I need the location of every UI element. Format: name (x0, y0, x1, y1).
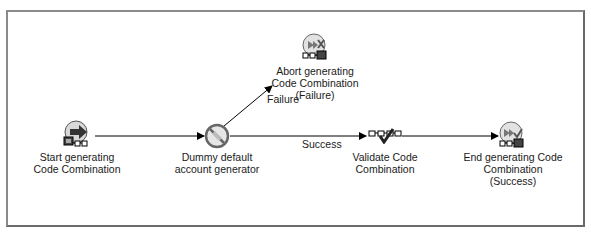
start-process-icon (62, 120, 92, 150)
validate-function-icon (368, 128, 402, 144)
node-label: Start generating Code Combination (34, 151, 121, 175)
edge-dummy-abort[interactable] (224, 86, 272, 126)
label-line: Abort generating (272, 65, 359, 77)
abort-process-icon (300, 33, 330, 63)
label-line: Validate Code (352, 151, 417, 163)
edges-layer (0, 0, 591, 235)
node-label: Validate Code Combination (352, 151, 417, 175)
label-line: Combination (463, 163, 562, 175)
end-process-icon (497, 121, 527, 151)
label-line: account generator (175, 163, 260, 175)
no-op-function-icon (204, 123, 230, 149)
node-label: Dummy default account generator (175, 151, 260, 175)
label-line: Code Combination (272, 77, 359, 89)
node-label: End generating Code Combination (Success… (463, 151, 562, 187)
label-line: Start generating (34, 151, 121, 163)
label-line: Combination (352, 163, 417, 175)
label-line: Code Combination (34, 163, 121, 175)
edge-label-success: Success (302, 138, 342, 150)
label-line: End generating Code (463, 151, 562, 163)
label-line: Dummy default (175, 151, 260, 163)
label-line: (Success) (463, 175, 562, 187)
edge-label-failure: Failure (267, 93, 299, 105)
